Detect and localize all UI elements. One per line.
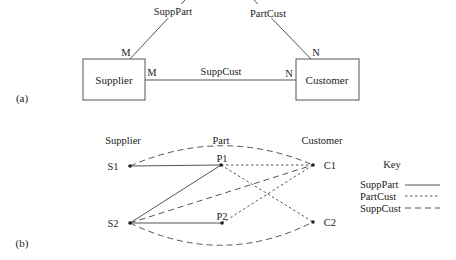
er-diagram: SuppPart PartCust M N Supplier Customer … [16, 0, 359, 105]
supplier-entity-label: Supplier [95, 74, 133, 86]
edge-s1-p1 [130, 165, 221, 166]
node-c2-label: C2 [324, 217, 336, 228]
suppcust-label: SuppCust [201, 66, 242, 77]
node-s1 [128, 164, 132, 168]
node-p1-label: P1 [216, 153, 227, 164]
legend-label-partcust: PartCust [360, 191, 396, 202]
supppart-cardinality: M [121, 47, 131, 58]
node-c1 [311, 163, 315, 167]
part-b-label: (b) [16, 237, 29, 250]
legend: Key SuppPart PartCust SuppCust [360, 159, 440, 214]
customer-entity-label: Customer [306, 74, 349, 86]
node-c1-label: C1 [324, 160, 336, 171]
supplier-column-header: Supplier [105, 135, 141, 146]
part-column-header: Part [213, 135, 230, 146]
legend-label-supppart: SuppPart [360, 179, 399, 190]
suppcust-customer-cardinality: N [285, 68, 293, 79]
diagram-canvas: SuppPart PartCust M N Supplier Customer … [0, 0, 456, 260]
edge-s2-p1 [130, 165, 221, 223]
supppart-label: SuppPart [154, 6, 193, 17]
part-a-label: (a) [16, 92, 29, 105]
node-p2-label: P2 [216, 211, 227, 222]
customer-column-header: Customer [302, 135, 343, 146]
node-c2 [311, 220, 315, 224]
node-s1-label: S1 [107, 161, 118, 172]
node-s2 [128, 221, 132, 225]
partcust-cardinality: N [312, 47, 320, 58]
occurrence-diagram: Supplier Part Customer S1 S2 P1 P2 C1 C2… [16, 135, 440, 250]
suppcust-supplier-cardinality: M [147, 67, 157, 78]
edge-s2-c2 [130, 222, 313, 245]
partcust-label: PartCust [250, 8, 286, 19]
node-s2-label: S2 [107, 218, 118, 229]
legend-label-suppcust: SuppCust [360, 203, 401, 214]
legend-title: Key [383, 159, 401, 170]
